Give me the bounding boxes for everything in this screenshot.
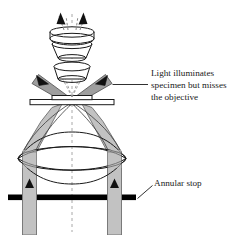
objective-lens: [54, 62, 90, 82]
annotation-line-1: Light illuminates: [151, 68, 214, 78]
annotation-line-2: specimen but misses: [151, 80, 227, 90]
optical-diagram: Light illuminates specimen but misses th…: [0, 0, 242, 235]
annotation-line-3: the objective: [151, 92, 198, 102]
annotation-annular-stop: Annular stop: [154, 178, 202, 188]
figure-canvas: Light illuminates specimen but misses th…: [0, 0, 242, 235]
eyepiece-lens: [50, 27, 94, 45]
specimen-slide: [30, 100, 114, 105]
annular-stop-label: Annular stop: [154, 178, 202, 188]
